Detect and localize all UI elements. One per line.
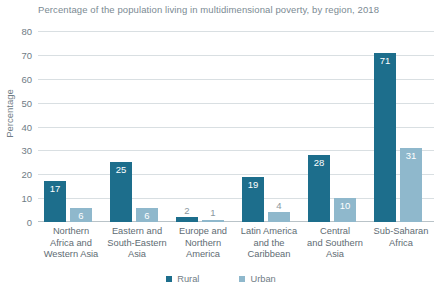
x-axis-category-label: Centraland SouthernAsia bbox=[302, 226, 368, 261]
bar-value-label: 10 bbox=[334, 201, 356, 211]
y-axis-tick-label: 50 bbox=[21, 97, 32, 108]
x-axis-category-label: Latin Americaand theCaribbean bbox=[236, 226, 302, 261]
y-axis-tick-label: 0 bbox=[27, 217, 32, 228]
x-axis-category-line: and the bbox=[236, 238, 302, 250]
bar-urban[interactable]: 6 bbox=[70, 208, 92, 222]
x-axis-category-line: Asia bbox=[302, 249, 368, 261]
x-axis-category-line: Sub-Saharan bbox=[368, 226, 434, 238]
x-axis-category-line: and Southern bbox=[302, 238, 368, 250]
legend-item-rural[interactable]: Rural bbox=[166, 274, 199, 284]
x-axis-category-line: Central bbox=[302, 226, 368, 238]
y-axis-tick-label: 70 bbox=[21, 49, 32, 60]
x-axis-category-label: NorthernAfrica andWestern Asia bbox=[38, 226, 104, 261]
bar-urban[interactable]: 10 bbox=[334, 198, 356, 222]
y-axis-tick-label: 40 bbox=[21, 121, 32, 132]
bar-group: 7131 bbox=[368, 31, 434, 222]
x-axis-category-line: Latin America bbox=[236, 226, 302, 238]
x-axis-category-line: Eastern and bbox=[104, 226, 170, 238]
legend-swatch-icon bbox=[239, 276, 245, 282]
bar-group: 194 bbox=[236, 31, 302, 222]
bar-value-label: 19 bbox=[242, 180, 264, 190]
x-axis-category-label: Europe andNorthernAmerica bbox=[170, 226, 236, 261]
x-axis-category-line: America bbox=[170, 249, 236, 261]
x-axis-category-label: Sub-SaharanAfrica bbox=[368, 226, 434, 249]
bar-value-label: 6 bbox=[70, 211, 92, 221]
x-axis-category-labels: NorthernAfrica andWestern AsiaEastern an… bbox=[38, 226, 434, 272]
legend-item-urban[interactable]: Urban bbox=[239, 274, 275, 284]
bar-value-label: 17 bbox=[44, 184, 66, 194]
x-axis-category-label: Eastern andSouth-EasternAsia bbox=[104, 226, 170, 261]
bar-rural[interactable]: 25 bbox=[110, 162, 132, 222]
bar-value-label: 71 bbox=[374, 56, 396, 66]
y-axis-tick-label: 30 bbox=[21, 145, 32, 156]
x-axis-category-line: Africa and bbox=[38, 238, 104, 250]
bar-value-label: 4 bbox=[268, 201, 290, 211]
y-axis-tick-label: 80 bbox=[21, 26, 32, 37]
bar-group: 256 bbox=[104, 31, 170, 222]
bar-value-label: 2 bbox=[176, 206, 198, 216]
bar-value-label: 25 bbox=[110, 165, 132, 175]
chart-legend: RuralUrban bbox=[0, 274, 442, 284]
legend-label: Rural bbox=[177, 274, 199, 284]
x-axis-category-line: South-Eastern bbox=[104, 238, 170, 250]
bar-value-label: 1 bbox=[202, 208, 224, 218]
bar-rural[interactable]: 17 bbox=[44, 181, 66, 222]
bar-urban[interactable]: 1 bbox=[202, 220, 224, 222]
x-axis-category-line: Western Asia bbox=[38, 249, 104, 261]
legend-label: Urban bbox=[250, 274, 275, 284]
bar-group: 21 bbox=[170, 31, 236, 222]
bar-rural[interactable]: 28 bbox=[308, 155, 330, 222]
bar-rural[interactable]: 2 bbox=[176, 217, 198, 222]
bar-rural[interactable]: 71 bbox=[374, 53, 396, 223]
bar-rural[interactable]: 19 bbox=[242, 177, 264, 222]
bar-value-label: 6 bbox=[136, 211, 158, 221]
y-axis-tick-label: 60 bbox=[21, 73, 32, 84]
bar-urban[interactable]: 4 bbox=[268, 212, 290, 222]
bar-value-label: 28 bbox=[308, 158, 330, 168]
bar-group: 2810 bbox=[302, 31, 368, 222]
chart-title: Percentage of the population living in m… bbox=[38, 4, 438, 15]
y-axis-tick-label: 10 bbox=[21, 193, 32, 204]
bar-urban[interactable]: 6 bbox=[136, 208, 158, 222]
plot-area: 807060504030201001762562119428107131 bbox=[38, 31, 434, 222]
y-axis-title: Percentage bbox=[4, 74, 15, 154]
x-axis-category-line: Europe and bbox=[170, 226, 236, 238]
legend-swatch-icon bbox=[166, 276, 172, 282]
x-axis-category-line: Northern bbox=[170, 238, 236, 250]
bar-urban[interactable]: 31 bbox=[400, 148, 422, 222]
chart-figure: Percentage of the population living in m… bbox=[0, 0, 442, 293]
bar-group: 176 bbox=[38, 31, 104, 222]
y-axis-tick-label: 20 bbox=[21, 169, 32, 180]
x-axis-category-line: Africa bbox=[368, 238, 434, 250]
x-axis-category-line: Northern bbox=[38, 226, 104, 238]
x-axis-category-line: Asia bbox=[104, 249, 170, 261]
x-axis-category-line: Caribbean bbox=[236, 249, 302, 261]
bar-value-label: 31 bbox=[400, 151, 422, 161]
